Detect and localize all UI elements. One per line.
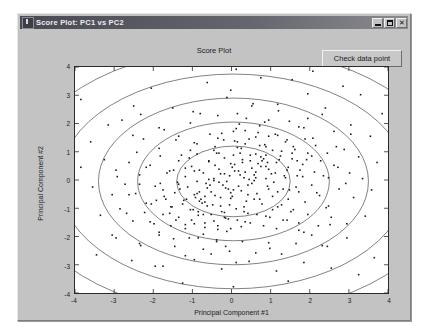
maximize-icon (387, 20, 393, 26)
y-axis-title: Principal Component #2 (37, 119, 44, 249)
x-tick-label: 1 (269, 297, 273, 304)
axis-ticks (75, 67, 388, 293)
close-icon: ✕ (397, 19, 406, 27)
y-tick-label: 2 (48, 120, 70, 127)
x-tick-label: -2 (150, 297, 156, 304)
x-tick-label: 3 (348, 297, 352, 304)
window-title: Score Plot: PC1 vs PC2 (36, 18, 371, 27)
matlab-figure-icon (22, 17, 34, 29)
scatter-points (80, 68, 383, 287)
maximize-button[interactable] (384, 18, 395, 28)
x-tick-label: -1 (189, 297, 195, 304)
y-tick-label: 0 (48, 177, 70, 184)
x-tick-label: 0 (230, 297, 234, 304)
x-tick-label: 2 (308, 297, 312, 304)
minimize-button[interactable] (372, 18, 383, 28)
y-tick-label: 4 (48, 63, 70, 70)
plot-axes[interactable] (74, 66, 389, 294)
contour-ellipses (75, 67, 388, 293)
x-tick-label: 4 (387, 297, 391, 304)
close-button[interactable]: ✕ (396, 18, 407, 28)
title-bar[interactable]: Score Plot: PC1 vs PC2 ✕ (20, 16, 408, 29)
y-tick-label: -4 (48, 291, 70, 298)
x-axis-title: Principal Component #1 (74, 309, 389, 316)
y-tick-label: -3 (48, 262, 70, 269)
plot-title: Score Plot (21, 46, 407, 55)
x-tick-label: -4 (71, 297, 77, 304)
x-tick-label: -3 (110, 297, 116, 304)
y-tick-label: 1 (48, 148, 70, 155)
application-window: Score Plot: PC1 vs PC2 ✕ Check data poin… (17, 13, 411, 321)
minimize-icon (375, 24, 381, 26)
scatter-plot-svg (75, 67, 388, 293)
y-tick-label: -1 (48, 205, 70, 212)
figure-canvas: Check data point Score Plot -4-3-2-10123… (21, 31, 407, 317)
y-tick-label: -2 (48, 234, 70, 241)
y-tick-label: 3 (48, 91, 70, 98)
